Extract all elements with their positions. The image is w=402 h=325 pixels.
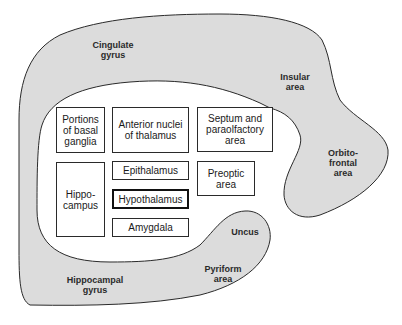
box-anterior-nuclei-thalamus: Anterior nuclei of thalamus: [112, 107, 189, 153]
box-preoptic-area: Preoptic area: [197, 161, 255, 196]
cingulate-gyrus-label: Cingulate gyrus: [78, 40, 148, 60]
box-septum-paraolfactory: Septum and paraolfactory area: [197, 107, 273, 152]
orbitofrontal-area-label: Orbito- frontal area: [318, 148, 368, 178]
pyriform-area-label: Pyriform area: [198, 264, 248, 284]
box-epithalamus: Epithalamus: [112, 161, 189, 180]
uncus-label: Uncus: [220, 227, 270, 237]
box-hypothalamus: Hypothalamus: [112, 189, 189, 209]
box-hippocampus: Hippo- campus: [56, 162, 105, 237]
hippocampal-gyrus-label: Hippocampal gyrus: [55, 275, 135, 295]
box-basal-ganglia: Portions of basal ganglia: [56, 107, 105, 153]
insular-area-label: Insular area: [270, 72, 320, 92]
box-amygdala: Amygdala: [112, 218, 189, 237]
